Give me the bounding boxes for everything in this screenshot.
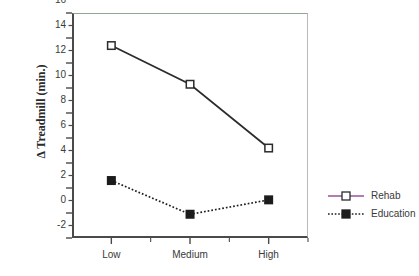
series-line-education (111, 181, 268, 215)
data-point-marker (186, 81, 194, 89)
legend-item-education: Education (327, 206, 413, 222)
chart-figure: Δ Treadmill (min.) -20246810121416 LowMe… (0, 0, 419, 276)
data-point-marker (265, 196, 273, 204)
data-point-marker (108, 177, 116, 185)
data-point-marker (186, 211, 194, 219)
legend-label-rehab: Rehab (371, 190, 400, 201)
legend-swatch-rehab (327, 188, 365, 204)
chart-canvas (0, 0, 419, 276)
data-point-marker (265, 144, 273, 152)
legend-swatch-education (327, 206, 365, 222)
data-point-marker (108, 42, 116, 50)
series-line-rehab (111, 46, 268, 149)
x-tick-marks (111, 238, 308, 244)
legend-item-rehab: Rehab (327, 188, 413, 204)
legend: Rehab Education (327, 186, 413, 230)
legend-label-education: Education (371, 208, 415, 219)
series-lines (111, 46, 268, 215)
y-minor-tick-marks (69, 26, 73, 226)
